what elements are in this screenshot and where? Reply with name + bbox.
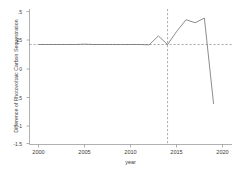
y-tick-marks [27,12,30,144]
y-tick-label-4: -1 [8,123,22,129]
y-tick-label-2: 0 [8,66,22,72]
x-tick-label-2005: 2005 [72,149,98,156]
y-tick-label-3: -.5 [8,95,22,101]
y-tick-label-5: -1.5 [8,141,22,147]
x-tick-label-2010: 2010 [118,149,144,156]
y-tick-label-0: .5 [8,9,22,15]
x-axis-title: year [29,159,232,166]
y-tick-label-1: .25 [8,37,22,43]
line-chart-plot [0,0,236,170]
x-tick-marks [39,145,223,148]
x-tick-label-2000: 2000 [26,149,52,156]
data-series-line [39,18,214,104]
chart-figure: Difference of Photovoltaic Carbon Seques… [0,0,236,170]
x-tick-label-2015: 2015 [164,149,190,156]
x-tick-label-2020: 2020 [210,149,236,156]
